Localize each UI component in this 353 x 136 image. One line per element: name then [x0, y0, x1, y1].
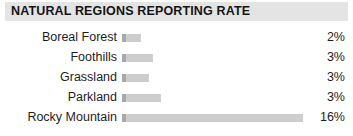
region-label: Grassland	[0, 68, 117, 88]
rate-value: 3%	[327, 68, 345, 88]
bar-track	[122, 54, 304, 62]
natural-regions-reporting-rate-widget: NATURAL REGIONS REPORTING RATE Boreal Fo…	[0, 0, 353, 136]
page-title: NATURAL REGIONS REPORTING RATE	[11, 3, 250, 20]
rate-bar	[122, 74, 149, 82]
region-label: Boreal Forest	[0, 28, 117, 48]
region-label: Foothills	[0, 48, 117, 68]
rate-value: 3%	[327, 48, 345, 68]
rate-bar	[122, 54, 153, 62]
rate-bar	[122, 34, 141, 42]
chart-row: Foothills3%	[0, 48, 353, 68]
rate-value: 2%	[327, 28, 345, 48]
bar-track	[122, 94, 304, 102]
rate-bar	[122, 94, 161, 102]
region-label: Parkland	[0, 88, 117, 108]
rate-value: 16%	[320, 108, 345, 128]
rate-value: 3%	[327, 88, 345, 108]
bar-chart-rows: Boreal Forest2%Foothills3%Grassland3%Par…	[0, 28, 353, 128]
region-label: Rocky Mountain	[0, 108, 117, 128]
bar-track	[122, 74, 304, 82]
bar-track	[122, 114, 304, 122]
chart-row: Rocky Mountain16%	[0, 108, 353, 128]
chart-row: Parkland3%	[0, 88, 353, 108]
rate-bar	[122, 114, 303, 122]
bar-track	[122, 34, 304, 42]
chart-row: Grassland3%	[0, 68, 353, 88]
chart-row: Boreal Forest2%	[0, 28, 353, 48]
